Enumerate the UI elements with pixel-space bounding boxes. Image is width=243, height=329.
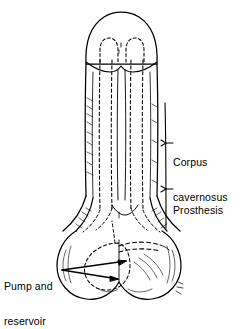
label-corpus-cavernosus-line1: Corpus <box>173 157 228 169</box>
label-pump-and-reservoir-line1: Pump and <box>4 281 53 293</box>
label-prosthesis-line1: Prosthesis <box>173 205 223 217</box>
label-pump-and-reservoir-line2: reservoir <box>4 316 53 328</box>
label-prosthesis: Prosthesis <box>173 182 223 240</box>
label-pump-and-reservoir: Pump and reservoir <box>4 258 53 329</box>
